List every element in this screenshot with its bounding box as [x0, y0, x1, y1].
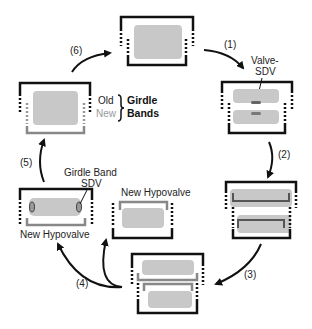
step-label-5: (5)	[20, 157, 32, 168]
legend-girdle: Girdle	[127, 94, 158, 106]
arrow-step-2	[268, 142, 272, 177]
cell-stage-5	[20, 83, 90, 133]
girdle-band-sdv-label-line2: SDV	[81, 178, 102, 189]
step-label-6: (6)	[70, 45, 82, 56]
diatom-cell-cycle-diagram: (1) Valve- SDV (2) (3)	[0, 0, 312, 329]
valve-sdv-label-line1: Valve-	[251, 55, 279, 66]
new-girdle-band	[27, 126, 84, 133]
cell-stage-4-left	[20, 189, 92, 225]
arrow-step-5	[40, 140, 44, 182]
cell-stage-3	[132, 254, 203, 313]
legend: Old New Girdle Bands	[96, 94, 159, 121]
step-label-1: (1)	[224, 39, 236, 50]
step-label-4: (4)	[76, 278, 88, 289]
girdle-band-sdv-left	[30, 202, 35, 212]
new-hypovalve-label-center: New Hypovalve	[121, 187, 191, 198]
cell-stage-top	[121, 17, 193, 65]
cell-stage-1	[222, 82, 292, 133]
step-label-2: (2)	[278, 149, 290, 160]
arrow-step-4-left	[58, 244, 122, 287]
cell-stage-4-center	[113, 202, 172, 238]
legend-new: New	[96, 108, 117, 119]
valve-sdv-label-line2: SDV	[255, 66, 276, 77]
legend-bands: Bands	[127, 107, 159, 119]
legend-old: Old	[98, 95, 114, 106]
valve-sdv-bottom	[251, 112, 261, 115]
girdle-band-sdv-label-line1: Girdle Band	[64, 167, 117, 178]
girdle-band-sdv-pointer	[80, 190, 87, 204]
valve-sdv-top	[251, 101, 261, 104]
daughter-protoplast-top	[233, 89, 279, 103]
arrow-step-4-right	[103, 240, 122, 287]
cell-stage-2	[226, 182, 296, 238]
protoplast	[134, 25, 182, 59]
arrow-step-1	[204, 50, 243, 68]
new-hypovalve-label-left: New Hypovalve	[20, 229, 90, 240]
new-hypovalve-bottom	[144, 284, 192, 291]
legend-brace	[118, 95, 124, 121]
step-label-3: (3)	[244, 269, 256, 280]
